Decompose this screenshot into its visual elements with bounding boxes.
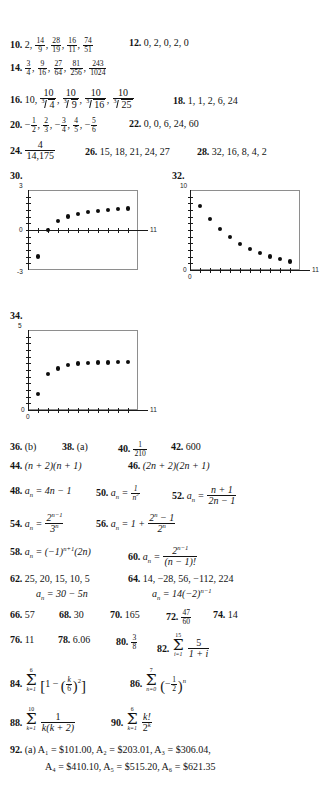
y-tick-label-zero: 0: [21, 406, 25, 413]
answer-number-40: 40.: [118, 443, 130, 454]
answer-value-76: 11: [25, 634, 35, 645]
answer-value-58: an = (−1)n+1(2n): [25, 546, 91, 557]
y-tick: [26, 397, 31, 398]
answer-number-24: 24.: [10, 145, 22, 156]
answer-entry-76: 76. 11: [10, 634, 34, 645]
y-tick-label-min: -3: [17, 268, 23, 275]
answer-number-88: 88.: [10, 717, 22, 728]
answer-number-62: 62.: [10, 573, 22, 584]
y-tick: [26, 377, 31, 378]
summation: 15 Σ i=1: [173, 633, 184, 658]
y-tick: [26, 337, 31, 338]
fraction: 38: [131, 634, 137, 650]
y-tick: [26, 343, 31, 344]
summation: 7 Σ n=0: [146, 668, 157, 693]
answer-value-90: 6 Σ k=1 k!2k: [126, 717, 153, 728]
data-point: [56, 366, 60, 370]
x-tick-label-max: 11: [150, 406, 157, 413]
y-tick: [188, 230, 193, 231]
y-tick: [26, 257, 31, 258]
answer-value-18: 1, 1, 2, 6, 24: [188, 95, 238, 106]
fraction: 1210: [133, 441, 146, 457]
summation: 10 Σ k=1: [26, 707, 37, 732]
answer-value-92-line1: A₁ = $101.00, A₂ = $203.01, A₃ = $306.04…: [38, 744, 211, 755]
answer-value-54: an = 2n−13n: [25, 518, 64, 529]
y-tick: [26, 223, 31, 224]
answer-number-52: 52.: [172, 490, 184, 501]
answer-value-10: 2, 149, 2819, 1611, 7451: [25, 39, 94, 50]
answer-entry-42: 42. 600: [171, 441, 201, 452]
answer-value-38: (a): [77, 441, 88, 452]
answer-entry-88: 88. 10 Σ k=1 1k(k + 2): [10, 707, 76, 733]
y-tick-label-max: 5: [18, 322, 22, 329]
x-tick-label-min: 0: [26, 413, 30, 420]
y-tick-label-max: 3: [19, 182, 23, 189]
figure-label-32: 32.: [172, 170, 185, 181]
y-tick: [26, 357, 31, 358]
x-tick: [78, 228, 79, 233]
y-tick: [26, 370, 31, 371]
answer-entry-70: 70. 165: [110, 609, 140, 620]
fraction: 12: [31, 117, 37, 133]
answer-value-16: 10, 1034, 1039, 10316, 10325: [25, 94, 135, 105]
answer-entry-78: 78. 6.06: [58, 634, 90, 645]
answer-value-44: (n + 2)(n + 1): [25, 460, 82, 471]
cube-root: 34: [41, 99, 55, 110]
figure-34: 34. 50011: [10, 310, 160, 445]
answer-entry-26: 26. 15, 18, 21, 24, 27: [85, 146, 170, 157]
x-tick: [118, 228, 119, 233]
fraction: 4760: [181, 609, 191, 625]
y-tick: [26, 210, 31, 211]
answer-entry-28: 28. 32, 16, 8, 4, 2: [197, 146, 267, 157]
answer-number-86: 86.: [130, 678, 142, 689]
fraction: 1n2: [131, 485, 139, 501]
fraction: 56: [91, 117, 97, 133]
answer-number-74: 74.: [213, 609, 225, 620]
answer-number-36: 36.: [10, 441, 22, 452]
summation: 6 Σ k=1: [26, 668, 37, 693]
y-tick: [26, 263, 31, 264]
figure-30: 30. 30-311: [10, 170, 160, 305]
answer-number-90: 90.: [111, 717, 123, 728]
answer-entry-48: 48. an = 4n − 1: [10, 485, 72, 496]
answer-entry-46: 46. (2n + 2)(2n + 1): [128, 460, 210, 471]
fraction: 2431024: [89, 60, 106, 76]
answer-entry-40: 40. 1210: [118, 441, 147, 457]
data-point: [76, 361, 80, 365]
cube-root: 316: [86, 99, 105, 110]
answer-value-72: 4760: [181, 611, 192, 622]
answer-entry-52: 52. an = n + 12n − 1: [172, 485, 237, 506]
y-tick: [26, 230, 31, 231]
answer-entry-84: 84. 6 Σ k=1 [1 − (k6)2]: [10, 668, 86, 695]
fraction: 414,175: [25, 140, 55, 161]
x-tick: [118, 408, 119, 413]
fraction: 51 + i: [188, 638, 210, 659]
answer-value-12: 0, 2, 0, 2, 0: [144, 37, 189, 48]
answer-entry-68: 68. 30: [59, 609, 84, 620]
fraction: 81256: [70, 60, 83, 76]
answer-entry-74: 74. 14: [213, 609, 238, 620]
answer-number-18: 18.: [173, 95, 185, 106]
figure-label-30: 30.: [10, 170, 23, 181]
answer-number-66: 66.: [10, 609, 22, 620]
fraction: 2n−1(n − 1)!: [163, 546, 197, 567]
x-tick: [98, 408, 99, 413]
answer-value-22: 0, 0, 6, 24, 60: [144, 118, 199, 129]
figure-label-34: 34.: [10, 310, 23, 321]
answer-formula-64-text: an = 14(−2)n−1: [152, 588, 212, 599]
data-point: [238, 242, 242, 246]
answer-formula-62: an = 30 − 5n: [36, 588, 88, 599]
answer-value-86: 7 Σ n=0 (−12)n: [145, 678, 186, 689]
y-tick: [188, 243, 193, 244]
x-tick: [68, 408, 69, 413]
data-point: [126, 206, 130, 210]
answer-value-36: (b): [25, 441, 37, 452]
x-tick: [48, 408, 49, 413]
answer-entry-90: 90. 6 Σ k=1 k!2k: [111, 707, 152, 733]
answer-entry-66: 66. 57: [10, 609, 35, 620]
answer-value-68: 30: [74, 609, 84, 620]
x-tick: [88, 228, 89, 233]
fraction: 34: [25, 60, 31, 76]
answer-entry-20: 20. −12, 23, −34, 45, −56: [10, 117, 97, 133]
answer-entry-62: 62. 25, 20, 15, 10, 5: [10, 573, 90, 584]
